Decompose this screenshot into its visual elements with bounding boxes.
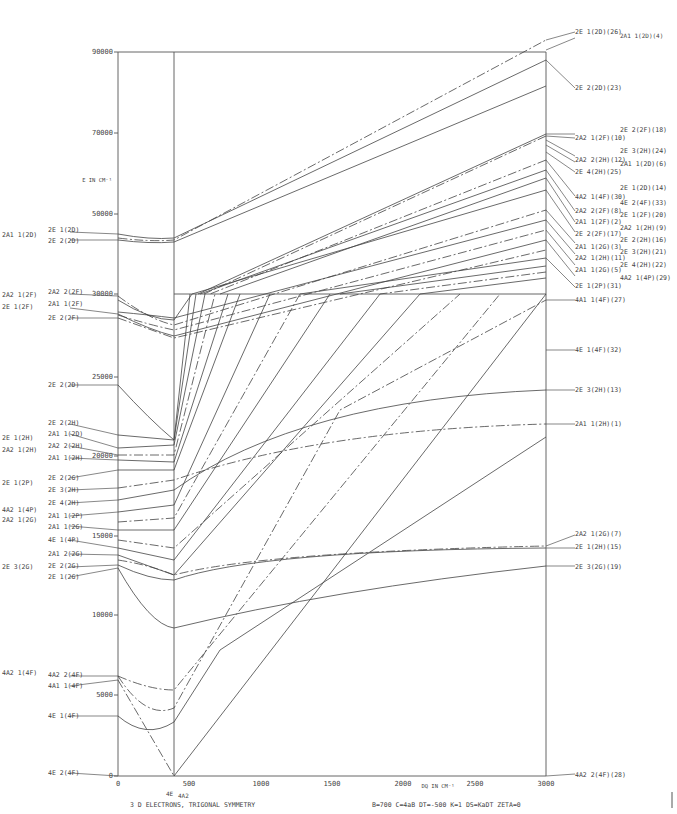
caption-parameters: B=700 C=4aB DT=-500 K=1 DS=KaDT ZETA=0: [372, 801, 521, 809]
left-inner-label: 2E 3(2H): [48, 486, 79, 494]
left-inner-label: 2E 2(2G): [48, 562, 79, 570]
x-tick-1000: 1000: [253, 780, 270, 788]
left-inner-label: 2A2 2(2F): [48, 288, 83, 296]
right-label: 2E 1(2H)(15): [575, 543, 622, 551]
y-tick-25000: 25000: [92, 373, 113, 381]
right-label: 4E 1(4F)(32): [575, 346, 622, 354]
left-inner-label: 2A1 1(2P): [48, 512, 83, 520]
y-axis-label: E IN CM⁻¹: [82, 177, 112, 183]
left-outer-label: 2A2 1(2H): [2, 446, 37, 454]
y-tick-15000: 15000: [92, 532, 113, 540]
left-outer-label: 4A2 1(4P): [2, 506, 37, 514]
right-label: 2A1 1(2D)(4): [620, 32, 663, 39]
x-tick-500: 500: [183, 780, 196, 788]
right-label: 4A1 1(4F)(27): [575, 296, 626, 304]
x-tick-2000: 2000: [395, 780, 412, 788]
left-outer-label: 4A2 1(4F): [2, 669, 37, 677]
left-outer-label: 2E 3(2G): [2, 563, 33, 571]
right-label: 2A2 1(2G)(7): [575, 530, 622, 538]
left-inner-label: 2E 2(2D): [48, 237, 79, 245]
right-label: 2E 3(2H)(13): [575, 386, 622, 394]
right-label: 2E 2(2F)(17): [575, 230, 622, 238]
x-tick-0: 0: [116, 780, 120, 788]
right-label: 2E 3(2H)(21): [620, 248, 667, 256]
left-inner-label: 2A1 1(2D): [48, 430, 83, 438]
left-inner-label: 2E 1(2D): [48, 226, 79, 234]
right-label: 2E 1(2F)(20): [620, 211, 667, 219]
left-inner-label: 4A1 1(4F): [48, 682, 83, 690]
right-label: 2E 3(2G)(19): [575, 563, 622, 571]
right-label: 2A1 1(2G)(3): [575, 243, 622, 251]
right-label: 2A2 1(2F)(10): [575, 134, 626, 142]
y-tick-90000: 90000: [92, 48, 113, 56]
right-label: 2A1 1(2G)(5): [575, 266, 622, 274]
energy-level-diagram: 90000 70000 50000 30000 25000 20000 1500…: [0, 0, 677, 814]
y-tick-70000: 70000: [92, 129, 113, 137]
right-label: 2A1 1(2F)(2): [575, 218, 622, 226]
marker-4a2: 4A2: [178, 792, 189, 799]
caption-title: 3 D ELECTRONS, TRIGONAL SYMMETRY: [130, 801, 255, 809]
y-tick-30000: 30000: [92, 290, 113, 298]
left-outer-label: 2A2 1(2G): [2, 516, 37, 524]
left-labels-outer: 2A1 1(2D) 2A2 1(2F) 2E 1(2F) 2E 1(2H) 2A…: [2, 231, 37, 677]
y-tick-50000: 50000: [92, 210, 113, 218]
right-label: 2E 2(2F)(18): [620, 126, 667, 134]
left-outer-label: 2E 1(2P): [2, 479, 33, 487]
left-inner-label: 4E 2(4F): [48, 769, 79, 777]
x-axis-ticks: 0 500 1000 1500 2000 2500 3000 DQ IN CM⁻…: [116, 780, 555, 799]
right-label: 2A1 1(2D)(6): [620, 160, 667, 168]
left-outer-label: 2E 1(2H): [2, 434, 33, 442]
x-tick-2500: 2500: [467, 780, 484, 788]
right-label: 2E 2(2D)(23): [575, 84, 622, 92]
left-outer-label: 2A2 1(2F): [2, 291, 37, 299]
right-label: 2E 4(2H)(22): [620, 261, 667, 269]
left-inner-label: 2A2 2(2H): [48, 442, 83, 450]
energy-curves: [118, 40, 546, 776]
left-inner-label: 4E 1(4P): [48, 536, 79, 544]
right-label: 2E 2(2H)(16): [620, 236, 667, 244]
right-label: 2A2 1(2H)(9): [620, 224, 667, 232]
plot-frame: [118, 52, 546, 776]
right-label: 4E 2(4F)(33): [620, 199, 667, 207]
left-inner-label: 2E 2(2H): [48, 419, 79, 427]
left-inner-label: 2A1 1(2G): [48, 523, 83, 531]
right-label: 4A2 1(4P)(29): [620, 274, 671, 282]
right-leaders: [546, 32, 575, 776]
left-inner-label: 2E 2(2F): [48, 314, 79, 322]
right-label: 2E 3(2H)(24): [620, 147, 667, 155]
right-label: 4A2 2(4F)(28): [575, 771, 626, 779]
right-label: 2A2 2(2H)(12): [575, 156, 626, 164]
right-label: 2E 1(2P)(31): [575, 282, 622, 290]
right-label: 2A2 1(2H)(11): [575, 254, 626, 262]
left-inner-label: 2E 2(2G): [48, 474, 79, 482]
left-inner-label: 2A1 1(2H): [48, 454, 83, 462]
left-inner-label: 4A2 2(4F): [48, 671, 83, 679]
right-label: 2E 4(2H)(25): [575, 168, 622, 176]
left-inner-label: 4E 1(4F): [48, 712, 79, 720]
y-tick-10000: 10000: [92, 611, 113, 619]
left-inner-label: 2A1 2(2G): [48, 550, 83, 558]
x-tick-3000: 3000: [538, 780, 555, 788]
left-outer-label: 2E 1(2F): [2, 303, 33, 311]
right-label: 2A2 2(2F)(8): [575, 207, 622, 215]
y-tick-5000: 5000: [96, 691, 113, 699]
y-axis-ticks: 90000 70000 50000 30000 25000 20000 1500…: [82, 48, 118, 780]
left-inner-label: 2E 1(2G): [48, 573, 79, 581]
left-outer-label: 2A1 1(2D): [2, 231, 37, 239]
left-inner-label: 2E 4(2H): [48, 499, 79, 507]
right-label: 4A2 1(4F)(30): [575, 193, 626, 201]
marker-4e: 4E: [166, 790, 174, 797]
right-label: 2A1 1(2H)(1): [575, 420, 622, 428]
left-inner-label: 2A1 1(2F): [48, 300, 83, 308]
right-label: 2E 1(2D)(14): [620, 184, 667, 192]
y-tick-0: 0: [109, 772, 113, 780]
x-tick-1500: 1500: [324, 780, 341, 788]
left-inner-label: 2E 2(2D): [48, 381, 79, 389]
x-axis-label: DQ IN CM⁻¹: [421, 783, 454, 789]
right-labels: 2E 1(2D)(26) 2A1 1(2D)(4) 2E 2(2D)(23) 2…: [575, 28, 671, 779]
right-label: 2E 1(2D)(26): [575, 28, 622, 36]
